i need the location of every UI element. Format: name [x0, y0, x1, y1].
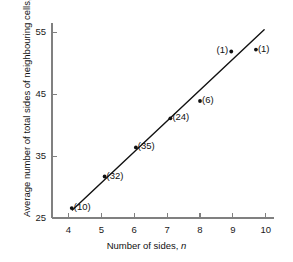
- data-point-label: (10): [74, 201, 91, 212]
- y-axis-tick-label: 25: [16, 212, 46, 223]
- y-axis-title: Average number of total sides of neighbo…: [21, 7, 33, 217]
- y-axis-tick-label: 55: [16, 26, 46, 37]
- data-point: [229, 50, 233, 54]
- data-point-label: (6): [202, 94, 214, 105]
- data-point-label: (24): [172, 111, 189, 122]
- x-axis-tick-label: 4: [53, 224, 83, 235]
- x-axis-tick-label: 5: [86, 224, 116, 235]
- x-axis-symbol: n: [181, 240, 186, 251]
- x-axis-tick-label: 8: [185, 224, 215, 235]
- data-point-label: (35): [138, 140, 155, 151]
- x-axis-tick-label: 10: [251, 224, 281, 235]
- y-axis-tick-label: 45: [16, 88, 46, 99]
- x-axis-tick-label: 7: [152, 224, 182, 235]
- x-axis-tick-label: 9: [218, 224, 248, 235]
- data-point-label: (1): [258, 43, 270, 54]
- fit-line: [72, 30, 264, 210]
- y-axis-tick-label: 35: [16, 150, 46, 161]
- data-point-label: (1): [0, 44, 228, 55]
- chart-figure: Average number of total sides of neighbo…: [0, 0, 293, 262]
- data-point-label: (32): [107, 170, 124, 181]
- x-axis-tick-label: 6: [119, 224, 149, 235]
- x-axis-title: Number of sides, n: [0, 240, 293, 251]
